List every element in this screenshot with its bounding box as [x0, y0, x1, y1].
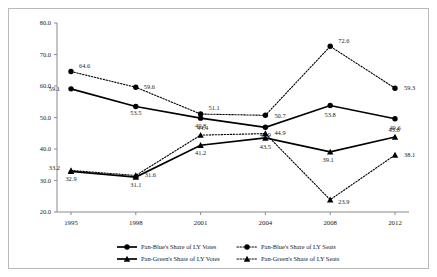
x-axis-tick-label: 1998	[129, 219, 143, 226]
y-axis-tick-label: 70.0	[40, 51, 51, 58]
data-label: 43.8	[388, 126, 399, 133]
y-axis-tick-label: 80.0	[40, 19, 51, 26]
data-label: 23.9	[338, 198, 349, 205]
data-point	[328, 103, 333, 108]
y-axis-tick-label: 20.0	[40, 208, 51, 215]
data-point	[392, 86, 397, 91]
data-point	[133, 85, 138, 90]
data-label: 50.7	[274, 112, 286, 119]
data-label: 46.9	[260, 131, 271, 138]
x-axis-tick-label: 2004	[259, 219, 273, 226]
y-axis-tick-label: 30.0	[40, 177, 51, 184]
legend-label: Pan-Green's Share of LY Seats	[261, 255, 340, 262]
legend-marker	[124, 244, 129, 249]
y-axis-tick-label: 50.0	[40, 114, 51, 121]
legend-marker	[244, 244, 249, 249]
data-label: 51.1	[209, 104, 220, 111]
data-label: 43.5	[260, 143, 271, 150]
data-label: 59.3	[404, 84, 415, 91]
legend-label: Pan-Blue's Share of LY Seats	[261, 243, 336, 250]
data-label: 31.6	[145, 171, 156, 178]
data-point	[263, 113, 268, 118]
series-line-3	[71, 134, 395, 200]
data-label: 41.2	[195, 149, 206, 156]
data-label: 53.5	[130, 109, 141, 116]
data-point	[68, 86, 73, 91]
chart-frame: 20.030.040.050.060.070.080.0 19951998200…	[8, 8, 429, 269]
data-point	[328, 44, 333, 49]
data-label: 39.1	[323, 156, 334, 163]
data-label: 59.1	[49, 85, 60, 92]
legend-item[interactable]: Pan-Blue's Share of LY Votes	[117, 243, 217, 250]
data-label: 33.2	[49, 164, 60, 171]
data-labels-layer: 59.153.549.846.953.849.664.659.651.150.7…	[49, 37, 415, 204]
data-label: 64.6	[79, 62, 90, 69]
data-point	[263, 125, 268, 130]
data-label: 72.6	[338, 37, 349, 44]
data-label: 59.6	[144, 83, 155, 90]
data-point	[133, 104, 138, 109]
data-point	[198, 111, 203, 116]
data-point	[392, 116, 397, 121]
y-axis-tick-label: 40.0	[40, 145, 51, 152]
series-line-2	[71, 137, 395, 177]
legend-item[interactable]: Pan-Blue's Share of LY Seats	[237, 243, 336, 250]
data-label: 32.9	[65, 175, 76, 182]
x-axis-tick-label: 2001	[194, 219, 208, 226]
data-point	[392, 152, 398, 158]
x-axis-tick-label: 2012	[388, 219, 402, 226]
legend-item[interactable]: Pan-Green's Share of LY Seats	[237, 255, 340, 262]
legend-item[interactable]: Pan-Green's Share of LY Votes	[117, 255, 220, 262]
x-axis-tick-label: 2008	[323, 219, 337, 226]
y-axis: 20.030.040.050.060.070.080.0	[40, 19, 57, 215]
legend-label: Pan-Green's Share of LY Votes	[141, 255, 220, 262]
data-label: 44.4	[197, 124, 209, 131]
data-point	[68, 167, 74, 173]
data-label: 53.8	[325, 111, 336, 118]
series-line-1	[71, 46, 395, 115]
data-point	[68, 69, 73, 74]
chart-legend: Pan-Blue's Share of LY VotesPan-Blue's S…	[117, 243, 340, 262]
data-label: 38.1	[404, 151, 415, 158]
series-layer	[68, 44, 398, 203]
x-axis-tick-label: 1995	[64, 219, 78, 226]
legend-label: Pan-Blue's Share of LY Votes	[141, 243, 217, 250]
line-chart: 20.030.040.050.060.070.080.0 19951998200…	[9, 9, 430, 270]
series-line-0	[71, 89, 395, 127]
data-label: 31.1	[130, 181, 141, 188]
x-axis: 199519982001200420082012	[57, 212, 409, 226]
data-label: 44.9	[274, 129, 285, 136]
